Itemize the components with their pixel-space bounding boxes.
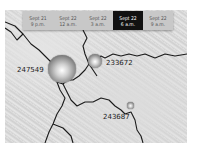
tick-time: 12 a.m. [59, 21, 76, 27]
timeline-tick-4[interactable]: Sept 22 9 a.m. [143, 11, 173, 30]
timeline-tick-2[interactable]: Sept 22 3 a.m. [83, 11, 113, 30]
timeline-tick-1[interactable]: Sept 22 12 a.m. [53, 11, 83, 30]
timeline-tick-3-active[interactable]: Sept 22 6 a.m. [113, 11, 143, 30]
tick-time: 3 a.m. [91, 21, 105, 27]
marker-bubble-medium[interactable] [88, 54, 102, 68]
marker-bubble-small[interactable] [127, 102, 134, 109]
timeline-tick-0[interactable]: Sept 21 9 p.m. [23, 11, 53, 30]
marker-label-large: 247549 [17, 66, 44, 74]
tick-time: 9 p.m. [31, 21, 45, 27]
tick-time: 6 a.m. [121, 21, 135, 27]
marker-label-small: 243687 [103, 113, 130, 121]
marker-label-medium: 233672 [106, 59, 133, 67]
marker-bubble-large[interactable] [48, 55, 76, 83]
tick-time: 9 a.m. [151, 21, 165, 27]
timeline-bar: Sept 21 9 p.m. Sept 22 12 a.m. Sept 22 3… [23, 11, 173, 30]
